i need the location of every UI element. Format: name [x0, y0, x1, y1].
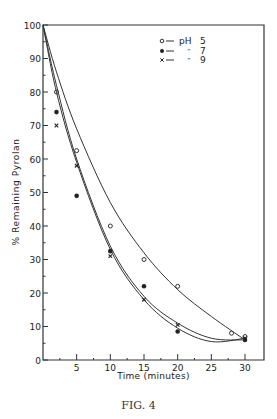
- open-circle-marker: [108, 224, 112, 228]
- chart-plot: 010203040506070809010051015202530pH5”7”9: [0, 0, 277, 419]
- legend-label: pH: [179, 36, 191, 46]
- y-tick-label: 20: [30, 289, 42, 299]
- legend-label: 9: [200, 55, 206, 65]
- open-circle-marker: [75, 149, 79, 153]
- filled-circle-marker: [54, 110, 59, 115]
- y-tick-label: 40: [30, 222, 42, 232]
- legend-filled-circle-icon: [160, 49, 164, 53]
- cross-marker: [142, 298, 146, 302]
- legend-label: 5: [200, 36, 206, 46]
- y-tick-label: 10: [30, 322, 42, 332]
- y-axis-label: % Remaining Pyrolan: [11, 139, 21, 246]
- legend-open-circle-icon: [160, 39, 164, 43]
- filled-circle-marker: [175, 329, 180, 334]
- y-tick-label: 100: [24, 21, 41, 31]
- open-circle-marker: [230, 331, 234, 335]
- y-tick-label: 70: [30, 121, 42, 131]
- filled-circle-marker: [142, 284, 147, 289]
- x-axis-label: Time (minutes): [43, 371, 264, 381]
- open-circle-marker: [176, 284, 180, 288]
- curve-ph-9: [43, 25, 245, 340]
- cross-marker: [109, 254, 113, 258]
- y-tick-label: 30: [30, 255, 42, 265]
- legend-cross-icon: [160, 58, 163, 61]
- y-tick-label: 0: [35, 356, 41, 366]
- legend-ditto-mark: ”: [187, 57, 191, 65]
- legend-ditto-mark: ”: [187, 48, 191, 56]
- open-circle-marker: [142, 258, 146, 262]
- figure-caption: FIG. 4: [0, 399, 277, 412]
- y-tick-label: 90: [30, 54, 42, 64]
- cross-marker: [55, 124, 59, 128]
- curve-ph-5: [43, 25, 245, 340]
- y-tick-label: 50: [30, 188, 42, 198]
- curve-ph-7: [43, 25, 245, 342]
- filled-circle-marker: [74, 194, 79, 199]
- y-tick-label: 60: [30, 155, 42, 165]
- y-tick-label: 80: [30, 88, 42, 98]
